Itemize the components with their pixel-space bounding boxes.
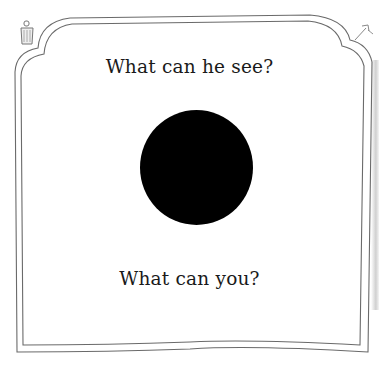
question-top: What can he see? — [0, 56, 379, 77]
question-bottom: What can you? — [0, 268, 379, 289]
book-page: What can he see? What can you? — [0, 0, 379, 367]
lantern-icon — [18, 20, 36, 48]
arrow-sketch-icon — [352, 22, 376, 46]
black-circle-illustration — [140, 110, 253, 225]
